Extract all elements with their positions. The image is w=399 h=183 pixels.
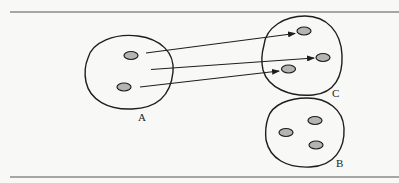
set-a-element-1 bbox=[124, 52, 138, 60]
set-b-element-3 bbox=[309, 141, 323, 149]
set-c-element-right bbox=[316, 54, 330, 62]
set-b-label: B bbox=[336, 158, 343, 169]
set-b-element-2 bbox=[279, 129, 293, 137]
set-c-element-top bbox=[297, 27, 311, 35]
set-a bbox=[85, 35, 173, 109]
set-c bbox=[262, 16, 342, 95]
set-c-element-lower-left bbox=[282, 65, 296, 73]
set-b bbox=[266, 98, 344, 167]
set-c-label: C bbox=[332, 88, 339, 99]
arrow-a-to-c-lower-left bbox=[140, 71, 279, 87]
set-a-label: A bbox=[138, 112, 146, 123]
arrow-a-to-c-top bbox=[146, 34, 295, 54]
set-a-boundary bbox=[85, 35, 173, 109]
set-b-boundary bbox=[266, 98, 344, 167]
set-b-element-1 bbox=[308, 117, 322, 125]
diagram-canvas: A C B bbox=[0, 0, 399, 183]
set-a-element-2 bbox=[117, 83, 131, 91]
